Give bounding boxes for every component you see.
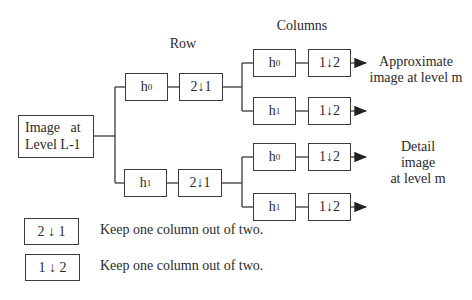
detail-output-label: Detail image at level m <box>380 139 456 187</box>
input-image-block: Image at Level L-1 <box>18 115 94 158</box>
filter-subscript: 1 <box>147 178 152 188</box>
filter-subscript: 0 <box>148 82 153 92</box>
row-filter-h1: h1 <box>124 169 167 197</box>
detail-line2: image <box>380 155 456 171</box>
col-filter-h1-top: h1 <box>253 97 296 125</box>
legend-symbol-2-1: 2 ↓ 1 <box>24 218 79 245</box>
row-downsampler-bottom: 2↓1 <box>178 169 222 197</box>
detail-line1: Detail <box>380 139 456 155</box>
approx-line1: Approximate <box>362 54 470 70</box>
filter-symbol: h <box>269 199 276 215</box>
col-filter-h0-bottom: h0 <box>253 143 296 171</box>
col-downsampler-1: 1↓2 <box>308 49 351 77</box>
legend-description-2-1: Keep one column out of two. <box>100 222 263 238</box>
input-line1: Image at <box>25 119 87 136</box>
filter-symbol: h <box>140 175 147 191</box>
filter-subscript: 1 <box>276 202 281 212</box>
filter-symbol: h <box>141 79 148 95</box>
row-downsampler-top: 2↓1 <box>179 73 223 101</box>
filter-subscript: 1 <box>276 106 281 116</box>
filter-symbol: h <box>269 55 276 71</box>
approx-line2: image at level m <box>362 70 470 86</box>
filter-symbol: h <box>269 103 276 119</box>
col-downsampler-3: 1↓2 <box>308 143 351 171</box>
col-downsampler-4: 1↓2 <box>308 193 351 221</box>
legend-symbol-1-2: 1 ↓ 2 <box>25 254 80 281</box>
row-header: Row <box>158 36 208 52</box>
filter-subscript: 0 <box>276 152 281 162</box>
columns-header: Columns <box>270 18 334 34</box>
input-line2: Level L-1 <box>25 136 87 153</box>
approx-output-label: Approximate image at level m <box>362 54 470 86</box>
legend-description-1-2: Keep one column out of two. <box>100 258 263 274</box>
detail-line3: at level m <box>380 171 456 187</box>
row-filter-h0: h0 <box>125 73 168 101</box>
col-filter-h0-top: h0 <box>253 49 296 77</box>
col-downsampler-2: 1↓2 <box>308 97 351 125</box>
filter-subscript: 0 <box>276 58 281 68</box>
col-filter-h1-bottom: h1 <box>253 193 296 221</box>
filter-symbol: h <box>269 149 276 165</box>
